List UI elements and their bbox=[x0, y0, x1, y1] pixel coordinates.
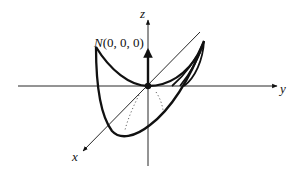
hidden-curve-left bbox=[125, 95, 139, 130]
x-axis-label: x bbox=[71, 149, 78, 164]
surface-lower-loop bbox=[96, 41, 204, 136]
origin-point bbox=[145, 83, 151, 89]
hidden-curve-right bbox=[156, 92, 163, 110]
point-coords: (0, 0, 0) bbox=[103, 35, 144, 50]
y-axis-label: y bbox=[278, 81, 286, 96]
diagram-canvas: z y x N(0, 0, 0) bbox=[0, 0, 298, 172]
z-axis-label: z bbox=[139, 6, 145, 21]
point-label: N(0, 0, 0) bbox=[93, 35, 144, 50]
